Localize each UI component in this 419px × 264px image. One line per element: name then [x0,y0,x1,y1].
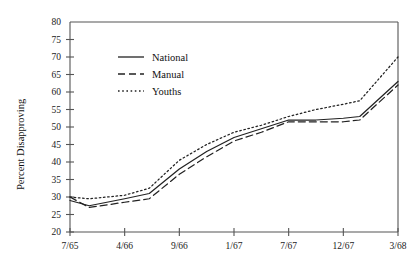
y-tick-label: 50 [52,122,62,132]
y-tick-label: 55 [52,105,62,115]
y-axis-ticks: 20253035404550556065707580 [52,17,75,237]
x-tick-label: 12/67 [333,241,355,251]
y-tick-label: 75 [52,35,62,45]
legend-label-youths: Youths [152,86,181,97]
y-axis-title-group: Percent Disapproving [15,98,26,190]
line-chart: Percent Disapproving 2025303540455055606… [0,0,419,264]
x-tick-label: 7/65 [62,241,79,251]
legend-label-national: National [152,52,188,63]
x-tick-label: 7/67 [280,241,297,251]
legend-label-manual: Manual [152,69,184,80]
y-tick-label: 20 [52,227,62,237]
y-tick-label: 60 [52,87,62,97]
x-tick-label: 9/66 [171,241,188,251]
chart-legend: NationalManualYouths [118,52,188,97]
x-tick-label: 3/68 [390,241,407,251]
y-tick-label: 40 [52,157,62,167]
y-tick-label: 70 [52,52,62,62]
y-axis-title: Percent Disapproving [15,98,26,190]
chart-figure: Percent Disapproving 2025303540455055606… [0,0,419,264]
y-tick-label: 65 [52,70,62,80]
y-tick-label: 45 [52,140,62,150]
y-tick-label: 80 [52,17,62,27]
x-tick-label: 1/67 [226,241,243,251]
x-tick-label: 4/66 [116,241,133,251]
series-line-manual [70,85,398,208]
series-line-youths [70,57,398,199]
series-line-national [70,82,398,206]
axis-frame [70,22,398,232]
y-tick-label: 30 [52,192,62,202]
data-series-group [70,57,398,208]
y-tick-label: 25 [52,210,62,220]
y-tick-label: 35 [52,175,62,185]
